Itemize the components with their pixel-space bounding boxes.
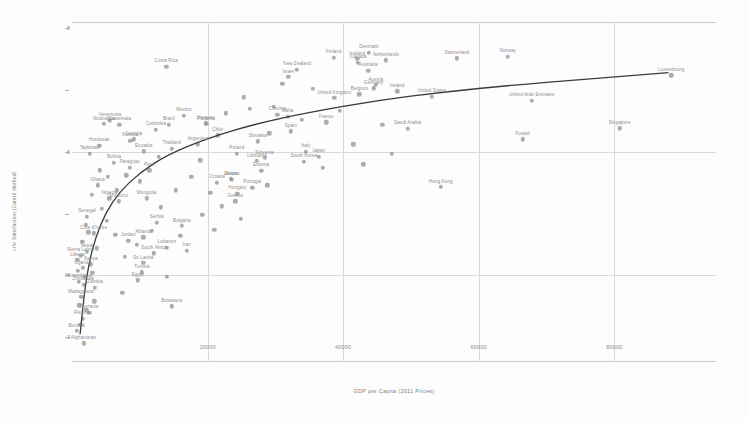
x-tick-label: 20000 bbox=[199, 344, 215, 350]
scatter-point-label: Iran bbox=[182, 242, 190, 247]
scatter-point-label: United Kingdom bbox=[317, 90, 351, 95]
scatter-point-label: Russia bbox=[225, 171, 240, 176]
scatter-point-label: Lithuania bbox=[247, 153, 267, 158]
scatter-point-label: Chile bbox=[212, 127, 223, 132]
scatter-point-label: Mexico bbox=[176, 107, 191, 112]
scatter-point-label: Israel bbox=[282, 69, 294, 74]
scatter-point-label: Spain bbox=[285, 123, 297, 128]
scatter-point-label: Lebanon bbox=[158, 239, 177, 244]
scatter-point-label: Czechia bbox=[269, 106, 286, 111]
scatter-point-label: Denmark bbox=[359, 44, 378, 49]
scatter-point-label: Switzerland bbox=[445, 50, 470, 55]
scatter-point-label: Botswana bbox=[161, 298, 182, 303]
scatter-point-label: Greece bbox=[228, 193, 244, 198]
scatter-point-label: Australia bbox=[359, 62, 378, 67]
trend-line bbox=[72, 22, 716, 362]
scatter-point-label: Burundi bbox=[68, 323, 85, 328]
scatter-point-label: Poland bbox=[229, 145, 244, 150]
scatter-point-label: Netherlands bbox=[373, 52, 399, 57]
scatter-plot-area: Costa RicaNew ZealandDenmarkFinlandNethe… bbox=[72, 22, 716, 362]
scatter-point-label: Luxembourg bbox=[658, 67, 685, 72]
scatter-point-label: Norway bbox=[500, 48, 516, 53]
scatter-point-label: Liberia bbox=[70, 252, 85, 257]
scatter-point-label: Albania bbox=[135, 229, 151, 234]
x-tick-label: 60000 bbox=[471, 344, 487, 350]
y-axis-title: Life Satisfaction (Cantril Method) bbox=[11, 171, 17, 250]
scatter-point-label: Serbia bbox=[150, 214, 164, 219]
scatter-point-label: Tanzania bbox=[79, 304, 98, 309]
scatter-point-label: Argentina bbox=[188, 136, 209, 141]
scatter-point-label: Austria bbox=[368, 77, 383, 82]
scatter-point-label: Honduras bbox=[89, 137, 110, 142]
chart-canvas: Costa RicaNew ZealandDenmarkFinlandNethe… bbox=[0, 0, 748, 422]
scatter-point-label: Estonia bbox=[253, 162, 269, 167]
scatter-point-label: Madagascar bbox=[68, 289, 94, 294]
scatter-point-label: Costa Rica bbox=[154, 58, 177, 63]
scatter-point-label: Hong Kong bbox=[429, 179, 453, 184]
scatter-point-label: Finland bbox=[326, 49, 342, 54]
scatter-point-label: Slovakia bbox=[249, 133, 267, 138]
y-tick-label: 3 bbox=[67, 334, 70, 340]
scatter-point-label: Singapore bbox=[609, 120, 631, 125]
scatter-point-label: Saudi Arabia bbox=[394, 120, 421, 125]
scatter-point-label: Egypt bbox=[132, 272, 144, 277]
scatter-point-label: Côte d'Ivoire bbox=[80, 225, 107, 230]
scatter-point-label: Colombia bbox=[146, 121, 166, 126]
scatter-point-label: United Arab Emirates bbox=[509, 92, 554, 97]
y-tick-label: 8 bbox=[67, 25, 70, 31]
x-tick-label: 80000 bbox=[606, 344, 622, 350]
x-tick-label: 40000 bbox=[335, 344, 351, 350]
scatter-point-label: Senegal bbox=[78, 208, 96, 213]
scatter-point-label: Tajikistan bbox=[80, 145, 100, 150]
scatter-point-label: Georgia bbox=[125, 131, 142, 136]
scatter-point-label: Iceland bbox=[350, 51, 366, 56]
scatter-point-label: Morocco bbox=[110, 193, 128, 198]
scatter-point-label: Uganda bbox=[74, 260, 91, 265]
scatter-point-label: Croatia bbox=[209, 174, 225, 179]
scatter-point-label: Paraguay bbox=[119, 159, 139, 164]
scatter-point-label: Hungary bbox=[228, 185, 246, 190]
scatter-point-label: United States bbox=[418, 88, 447, 93]
scatter-point-label: Ghana bbox=[91, 177, 105, 182]
scatter-point-label: South Korea bbox=[291, 153, 318, 158]
scatter-point-label: Thailand bbox=[162, 140, 180, 145]
scatter-point-label: Sri Lanka bbox=[133, 255, 153, 260]
scatter-point-label: Jordan bbox=[121, 232, 136, 237]
y-tick-mark bbox=[65, 214, 69, 215]
scatter-point-label: Afghanistan bbox=[71, 335, 96, 340]
scatter-point-label: Peru bbox=[144, 162, 154, 167]
scatter-point-label: Kuwait bbox=[516, 131, 530, 136]
scatter-point-label: Bulgaria bbox=[173, 218, 191, 223]
scatter-point-label: Venezuela bbox=[99, 112, 121, 117]
scatter-point-label: Mongolia bbox=[137, 190, 156, 195]
scatter-point-label: Uruguay bbox=[196, 115, 214, 120]
scatter-point-label: Portugal bbox=[243, 179, 261, 184]
scatter-point-label: Zambia bbox=[87, 279, 103, 284]
scatter-point-label: Ecuador bbox=[135, 143, 153, 148]
scatter-point-label: South Africa bbox=[141, 245, 167, 250]
scatter-point-label: Tunisia bbox=[134, 264, 149, 269]
x-axis-title: GDP per Capita (2011 Prices) bbox=[72, 388, 716, 394]
y-tick-label: 4 bbox=[67, 272, 70, 278]
scatter-point-label: Italy bbox=[301, 143, 310, 148]
scatter-point-label: Belgium bbox=[351, 86, 368, 91]
scatter-point-label: Ireland bbox=[390, 83, 405, 88]
scatter-point-label: Rwanda bbox=[74, 310, 91, 315]
scatter-point-label: New Zealand bbox=[283, 61, 311, 66]
y-tick-mark bbox=[65, 90, 69, 91]
y-tick-label: 6 bbox=[67, 149, 70, 155]
scatter-point-label: France bbox=[319, 114, 334, 119]
